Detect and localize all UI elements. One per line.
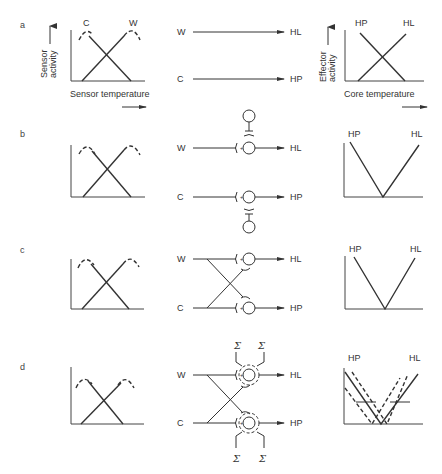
synapse-icon <box>236 143 238 153</box>
panel-label-b: b <box>20 129 25 139</box>
synapse-icon <box>236 370 238 380</box>
warm-curve <box>81 383 121 424</box>
input-c: C <box>177 418 184 428</box>
panel-label-d: d <box>20 362 25 372</box>
hp-hl-v-curve <box>350 142 419 197</box>
panel-label-c: c <box>20 245 25 255</box>
cold-curve-label: C <box>83 18 90 28</box>
synapse-icon <box>236 192 238 202</box>
synapse-icon <box>236 418 238 428</box>
panel-a: a C W Sensor activity Sensor temperature… <box>20 18 427 107</box>
sensor-plot-d <box>71 367 144 424</box>
circuit-a: W HL C HP <box>177 27 303 84</box>
sigma-top-right: Σ <box>257 340 266 351</box>
effector-plot-d: HP HL <box>344 353 423 424</box>
sigma-input-line <box>236 432 242 448</box>
hp-curve-label: HP <box>348 353 361 363</box>
neuron-hl-icon <box>243 253 255 265</box>
synapse-icon <box>244 209 254 211</box>
hp-hl-v-curve <box>354 257 415 309</box>
cold-curve <box>88 381 123 424</box>
synapse-icon <box>244 135 254 137</box>
sigma-input-line <box>257 432 264 448</box>
output-hl: HL <box>290 370 302 380</box>
c-to-hl-inhibit <box>207 270 243 308</box>
effector-x-label: Core temperature <box>344 89 415 99</box>
warm-curve <box>83 150 124 197</box>
effector-y-label-2: activity <box>327 54 337 82</box>
hl-curve-label: HL <box>403 18 415 28</box>
circuit-b: W + HL C + HP <box>177 110 303 233</box>
panel-b: b W + HL C + HP <box>20 110 423 233</box>
panel-label-a: a <box>20 20 25 30</box>
synapse-icon <box>236 303 238 313</box>
warm-curve <box>82 36 124 81</box>
hl-curve-label: HL <box>410 244 422 254</box>
input-c: C <box>177 74 184 84</box>
warm-curve-label: W <box>129 18 138 28</box>
panel-d: d W + HL Σ Σ C + <box>20 340 423 464</box>
interneuron-bottom-icon <box>243 221 255 233</box>
effector-plot-a: HP HL Effector activity Core temperature <box>318 18 427 107</box>
hp-curve-label: HP <box>355 18 368 28</box>
synapse-icon <box>241 268 250 270</box>
input-c: C <box>177 192 184 202</box>
sigma-bottom-right: Σ <box>258 453 267 464</box>
w-to-hp-inhibit <box>207 375 243 413</box>
warm-curve-peak <box>124 146 140 155</box>
sensor-y-label-2: activity <box>48 50 58 78</box>
sigma-input-line <box>257 352 264 366</box>
warm-curve-peak <box>123 259 139 267</box>
output-hl: HL <box>290 143 302 153</box>
effector-plot-c: HP HL <box>345 244 423 309</box>
hp-curve-label: HP <box>349 244 362 254</box>
neuron-hp-icon <box>243 302 255 314</box>
warm-curve-peak <box>124 31 140 40</box>
sigma-bottom-left: Σ <box>232 453 241 464</box>
thermoregulation-diagram: a C W Sensor activity Sensor temperature… <box>0 0 442 474</box>
cold-curve <box>92 151 131 197</box>
c-to-hl-inhibit <box>207 387 243 423</box>
hl-curve-label: HL <box>409 353 421 363</box>
input-w: W <box>177 27 186 37</box>
sigma-input-line <box>236 352 242 366</box>
output-hp: HP <box>290 192 303 202</box>
output-hl: HL <box>290 27 302 37</box>
panel-c: c W + HL C + HP <box>20 244 423 314</box>
effector-plot-b: HP HL <box>344 129 423 197</box>
hp-curve-label: HP <box>348 129 361 139</box>
circuit-c: W + HL C + HP <box>177 253 303 314</box>
sigma-top-left: Σ <box>233 340 242 351</box>
synapse-icon <box>236 254 238 264</box>
w-to-hp-inhibit <box>207 259 243 297</box>
circuit-d: W + HL Σ Σ C + HP Σ Σ <box>177 340 303 464</box>
interneuron-top-icon <box>243 110 255 122</box>
input-c: C <box>177 303 184 313</box>
neuron-hl-icon <box>243 142 255 154</box>
output-hp: HP <box>290 74 303 84</box>
input-w: W <box>177 254 186 264</box>
cold-curve <box>89 36 131 81</box>
warm-curve <box>82 264 123 309</box>
output-hp: HP <box>290 418 303 428</box>
neuron-hp-icon <box>243 191 255 203</box>
sensor-x-label: Sensor temperature <box>70 89 150 99</box>
neuron-hp-icon <box>243 417 255 429</box>
sensor-plot-a: C W Sensor activity Sensor temperature <box>39 18 150 107</box>
sensor-plot-c <box>71 259 144 309</box>
cold-curve-peak <box>79 147 95 154</box>
neuron-hl-icon <box>243 369 255 381</box>
synapse-icon <box>241 297 250 299</box>
output-hl: HL <box>290 254 302 264</box>
input-w: W <box>177 143 186 153</box>
input-w: W <box>177 370 186 380</box>
output-hp: HP <box>290 303 303 313</box>
hl-curve-label: HL <box>411 129 423 139</box>
sensor-plot-b <box>71 145 145 197</box>
cold-curve <box>91 264 129 309</box>
